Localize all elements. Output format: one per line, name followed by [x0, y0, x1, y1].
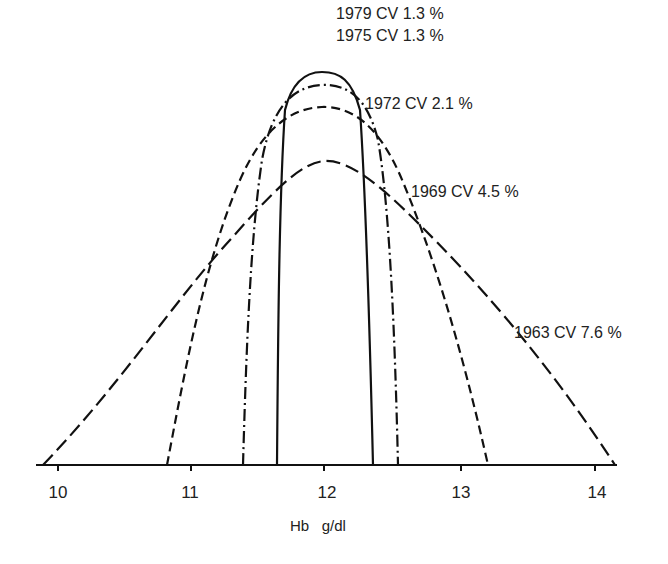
curve-1979: [277, 72, 373, 465]
tick-label-13: 13: [452, 483, 471, 502]
curve-1963: [43, 161, 615, 465]
label-1969: 1969 CV 4.5 %: [411, 183, 519, 200]
x-axis-label: Hb g/dl: [290, 517, 346, 534]
label-1972: 1972 CV 2.1 %: [365, 95, 473, 112]
hb-cv-chart: 10 11 12 13 14 Hb g/dl 1979 CV 1.3 % 197…: [0, 0, 668, 564]
label-1975: 1975 CV 1.3 %: [336, 27, 444, 44]
curve-1975: [243, 85, 398, 465]
tick-label-12: 12: [318, 483, 337, 502]
tick-label-10: 10: [49, 483, 68, 502]
label-1979: 1979 CV 1.3 %: [336, 5, 444, 22]
label-1963: 1963 CV 7.6 %: [514, 324, 622, 341]
tick-label-14: 14: [588, 483, 607, 502]
tick-label-11: 11: [181, 483, 199, 502]
